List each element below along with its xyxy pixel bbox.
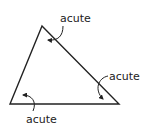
label-bottom-left-angle: acute xyxy=(26,113,57,126)
triangle xyxy=(10,26,119,104)
arrow-top-angle xyxy=(48,26,63,40)
label-top-angle: acute xyxy=(60,12,91,25)
label-right-angle: acute xyxy=(109,70,140,83)
acute-triangle-diagram: acute acute acute xyxy=(0,0,152,137)
arrow-bottom-left-angle xyxy=(23,95,34,111)
